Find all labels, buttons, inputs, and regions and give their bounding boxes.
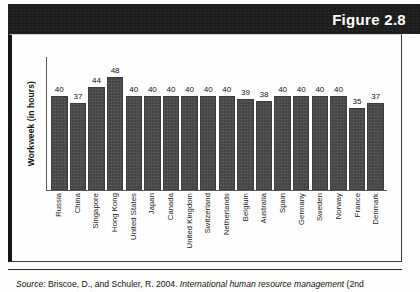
source-authors: Briscoe, D., and Schuler, R. 2004. (46, 279, 180, 289)
x-axis-category-label: Norway (334, 193, 343, 219)
bar-value-label: 40 (334, 86, 343, 94)
x-axis-category-label: Netherlands (222, 193, 231, 235)
bar-value-label: 40 (167, 86, 176, 94)
bar-group: 40 (330, 57, 346, 190)
bar-group: 38 (256, 57, 272, 190)
bar (51, 96, 67, 190)
bar (107, 77, 123, 190)
figure-header-band: Figure 2.8 (8, 4, 420, 34)
bar-value-label: 37 (371, 93, 380, 101)
x-axis-label-cell: Japan (143, 193, 159, 269)
x-axis-label-cell: Belgium (237, 193, 253, 269)
figure-container: Figure 2.8 Workweek (in hours) 403744484… (0, 0, 420, 292)
x-axis-category-label: Canada (166, 193, 175, 220)
bar-value-label: 40 (129, 86, 138, 94)
x-axis-label-cell: Denmark (368, 193, 384, 269)
x-axis-label-cell: United States (125, 193, 141, 269)
source-word: Source: (16, 279, 46, 289)
bar (70, 103, 86, 190)
bar-value-label: 40 (148, 86, 157, 94)
x-axis-label-cell: Russia (50, 193, 66, 269)
bar-group: 40 (144, 57, 160, 190)
source-edition: (2nd (344, 279, 364, 289)
bar-value-label: 39 (241, 89, 250, 97)
bar (256, 101, 272, 190)
x-axis-label-cell: Netherlands (218, 193, 234, 269)
footer-divider (8, 269, 402, 270)
bar (181, 96, 197, 190)
bar-group: 40 (293, 57, 309, 190)
bar-group: 40 (51, 57, 67, 190)
bar-group: 40 (274, 57, 290, 190)
bar-value-label: 40 (204, 86, 213, 94)
bar-group: 48 (107, 57, 123, 190)
source-title: International human resource management (180, 279, 344, 289)
bar-value-label: 40 (55, 86, 64, 94)
bar-value-label: 40 (297, 86, 306, 94)
x-axis-label-cell: France (349, 193, 365, 269)
bar-group: 40 (312, 57, 328, 190)
bar (200, 96, 216, 190)
bar (126, 96, 142, 190)
bar-group: 40 (163, 57, 179, 190)
x-axis-category-label: Russia (54, 193, 63, 217)
plot-frame: 403744484040404040403938404040403537 (46, 57, 387, 191)
bar-group: 39 (237, 57, 253, 190)
bar-group: 44 (88, 57, 104, 190)
x-axis-label-cell: Australia (255, 193, 271, 269)
bar-value-label: 48 (111, 67, 120, 75)
x-axis-label-cell: China (69, 193, 85, 269)
x-axis-label-cell: Singapore (87, 193, 103, 269)
x-axis-category-label: Hong Kong (110, 193, 119, 232)
x-axis-tick-labels: RussiaChinaSingaporeHong KongUnited Stat… (49, 193, 385, 269)
bar-value-label: 37 (73, 93, 82, 101)
bar-group: 40 (181, 57, 197, 190)
bar-series: 403744484040404040403938404040403537 (50, 57, 385, 190)
bar (367, 103, 383, 190)
bar (274, 96, 290, 190)
x-axis-category-label: Switzerland (203, 193, 212, 233)
x-axis-label-cell: United Kingdom (181, 193, 197, 269)
x-axis-label-cell: Hong Kong (106, 193, 122, 269)
bar-value-label: 40 (315, 86, 324, 94)
x-axis-label-cell: Germany (293, 193, 309, 269)
bar-group: 37 (367, 57, 383, 190)
x-axis-label-cell: Canada (162, 193, 178, 269)
x-axis-category-label: Singapore (91, 193, 100, 229)
y-axis-title: Workweek (in hours) (26, 81, 40, 166)
x-axis-category-label: United States (129, 193, 138, 240)
bar-group: 40 (126, 57, 142, 190)
bar-value-label: 44 (92, 77, 101, 85)
chart-plot-area: 403744484040404040403938404040403537 Rus… (46, 57, 387, 261)
x-axis-label-cell: Spain (274, 193, 290, 269)
x-axis-category-label: Spain (278, 193, 287, 213)
bar-value-label: 35 (353, 98, 362, 106)
bar (293, 96, 309, 190)
bar (163, 96, 179, 190)
bar-value-label: 40 (222, 86, 231, 94)
x-axis-category-label: Australia (259, 193, 268, 223)
x-axis-label-cell: Norway (330, 193, 346, 269)
source-caption: Source: Briscoe, D., and Schuler, R. 200… (16, 279, 410, 289)
x-axis-category-label: United Kingdom (185, 193, 194, 248)
bar-group: 40 (200, 57, 216, 190)
bar-group: 37 (70, 57, 86, 190)
chart-panel: Workweek (in hours) 40374448404040404040… (8, 34, 402, 262)
bar (312, 96, 328, 190)
bar-group: 35 (349, 57, 365, 190)
bar (349, 108, 365, 190)
x-axis-label-cell: Sweden (312, 193, 328, 269)
x-axis-category-label: France (353, 193, 362, 217)
x-axis-category-label: Sweden (315, 193, 324, 221)
bar-group: 40 (219, 57, 235, 190)
x-axis-category-label: Belgium (241, 193, 250, 221)
bar-value-label: 40 (278, 86, 287, 94)
figure-number-label: Figure 2.8 (332, 11, 420, 28)
bar (237, 99, 253, 191)
bar (88, 87, 104, 190)
x-axis-category-label: China (73, 193, 82, 213)
x-axis-category-label: Japan (147, 193, 156, 214)
x-axis-category-label: Germany (297, 193, 306, 225)
bar (144, 96, 160, 190)
bar-value-label: 38 (260, 91, 269, 99)
